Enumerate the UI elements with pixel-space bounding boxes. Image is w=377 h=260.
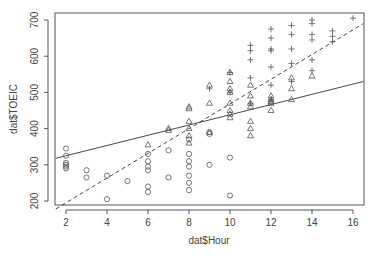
circle-point <box>145 184 150 189</box>
circle-point <box>186 180 191 185</box>
triangle-point <box>248 93 254 98</box>
circle-point <box>145 189 150 194</box>
y-tick-label: 600 <box>29 47 40 64</box>
circle-point <box>145 159 150 164</box>
plus-point <box>309 57 315 63</box>
scatter-plot: 200300400500600700 246810121416 dat$Hour… <box>0 0 377 260</box>
plus-point <box>268 35 274 41</box>
fit-lines <box>56 24 364 209</box>
plus-point <box>289 60 295 66</box>
x-tick-label: 10 <box>224 217 236 228</box>
plus-point <box>289 46 295 52</box>
circle-point <box>186 151 191 156</box>
y-axis: 200300400500600700 <box>29 11 48 209</box>
y-tick-label: 200 <box>29 192 40 209</box>
triangle-point <box>207 100 213 105</box>
plus-point <box>268 26 274 32</box>
x-tick-label: 2 <box>63 217 69 228</box>
y-axis-label: dat$TOEIC <box>8 84 19 134</box>
plus-point <box>248 57 254 63</box>
data-points <box>63 15 356 202</box>
x-axis: 246810121416 <box>63 210 359 228</box>
y-tick-label: 700 <box>29 11 40 28</box>
triangle-point <box>248 118 254 123</box>
plus-point <box>248 48 254 54</box>
x-axis-label: dat$Hour <box>188 235 230 246</box>
plus-point <box>330 33 336 39</box>
circle-point <box>166 148 171 153</box>
plus-point <box>289 31 295 37</box>
triangle-point <box>248 125 254 130</box>
circle-point <box>166 175 171 180</box>
plus-point <box>289 79 295 85</box>
circle-point <box>125 178 130 183</box>
y-tick-label: 500 <box>29 84 40 101</box>
plus-point <box>309 21 315 27</box>
plus-point <box>268 82 274 88</box>
circle-point <box>186 188 191 193</box>
circle-point <box>104 197 109 202</box>
plus-point <box>248 42 254 48</box>
dashed-fit-line <box>56 24 364 209</box>
circle-point <box>186 173 191 178</box>
circle-point <box>227 193 232 198</box>
circle-point <box>227 155 232 160</box>
triangle-point <box>309 73 315 78</box>
plus-point <box>330 28 336 34</box>
circle-point <box>186 159 191 164</box>
circle-point <box>145 168 150 173</box>
circle-point <box>63 146 68 151</box>
plus-point <box>268 64 274 70</box>
plus-point <box>309 37 315 43</box>
plus-point <box>330 39 336 45</box>
x-tick-label: 16 <box>347 217 359 228</box>
triangle-point <box>268 107 274 112</box>
x-tick-label: 6 <box>145 217 151 228</box>
plus-point <box>289 22 295 28</box>
x-tick-label: 4 <box>104 217 110 228</box>
circle-point <box>207 162 212 167</box>
circle-point <box>104 173 109 178</box>
y-tick-label: 300 <box>29 156 40 173</box>
circle-point <box>84 168 89 173</box>
triangle-point <box>248 82 254 87</box>
plus-point <box>309 31 315 37</box>
triangle-point <box>186 118 192 123</box>
triangle-point <box>227 78 233 83</box>
plus-point <box>207 86 213 92</box>
plot-box <box>55 13 364 205</box>
plus-point <box>350 15 356 21</box>
plus-point <box>309 68 315 74</box>
solid-fit-line <box>56 82 364 159</box>
triangle-point <box>248 133 254 138</box>
circle-point <box>186 164 191 169</box>
triangle-point <box>145 142 151 147</box>
plus-point <box>248 75 254 81</box>
y-tick-label: 400 <box>29 120 40 137</box>
x-tick-label: 14 <box>306 217 318 228</box>
x-tick-label: 8 <box>186 217 192 228</box>
triangle-point <box>186 125 192 130</box>
triangle-point <box>289 86 295 91</box>
circle-point <box>84 175 89 180</box>
x-tick-label: 12 <box>265 217 277 228</box>
